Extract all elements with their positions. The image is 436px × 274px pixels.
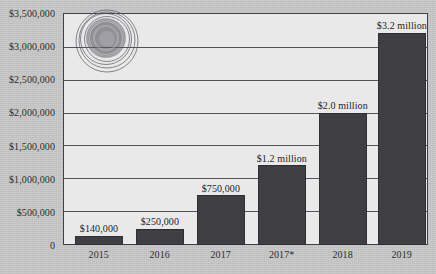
bar[interactable] [75,236,123,245]
x-tick-label: 2019 [392,249,412,260]
y-tick-label: $1,500,000 [0,140,59,151]
bar[interactable] [258,165,306,245]
chart-figure: $3,500,000 $3,000,000 $2,500,000 $2,000,… [0,0,436,274]
bar-value-label: $750,000 [202,183,240,194]
x-tick-label: 2017 [210,249,230,260]
x-tick-label: 2015 [89,249,109,260]
bars-layer: $140,000 $250,000 $750,000 $1.2 million … [63,13,428,245]
bar[interactable] [136,229,184,245]
y-tick-label: $3,000,000 [0,41,59,52]
bar[interactable] [378,33,426,245]
bar-value-label: $1.2 million [257,153,307,164]
x-tick-label: 2016 [150,249,170,260]
y-axis: $3,500,000 $3,000,000 $2,500,000 $2,000,… [0,13,59,245]
y-tick-label: $2,500,000 [0,74,59,85]
x-tick-label: 2017* [269,249,295,260]
bar-group: $2.0 million [319,13,367,245]
bar-group: $250,000 [136,13,184,245]
y-tick-label: 0 [0,240,59,251]
bar-group: $3.2 million [378,13,426,245]
bar-value-label: $2.0 million [318,100,368,111]
bar[interactable] [197,195,245,245]
bar-group: $140,000 [75,13,123,245]
bar-value-label: $140,000 [80,223,118,234]
y-tick-label: $2,000,000 [0,107,59,118]
y-tick-label: $3,500,000 [0,8,59,19]
bar-group: $1.2 million [258,13,306,245]
bar-value-label: $3.2 million [377,20,427,31]
x-axis: 2015 2016 2017 2017* 2018 2019 [63,249,428,269]
bar-value-label: $250,000 [141,216,179,227]
bar[interactable] [319,113,367,245]
x-tick-label: 2018 [332,249,352,260]
y-tick-label: $500,000 [0,206,59,217]
y-tick-label: $1,000,000 [0,173,59,184]
bar-group: $750,000 [197,13,245,245]
